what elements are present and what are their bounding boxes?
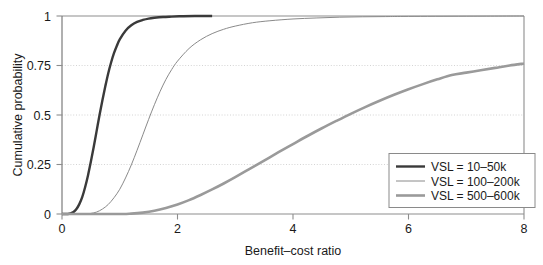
x-tick-label-2: 2: [174, 222, 181, 236]
y-tick-label-0.75: 0.75: [27, 59, 51, 73]
chart-legend[interactable]: VSL = 10–50k VSL = 100–200k VSL = 500–60…: [389, 154, 535, 208]
y-tick-label-1: 1: [44, 10, 51, 24]
grid-lines: [62, 66, 524, 165]
y-tick-marks: [57, 16, 63, 214]
x-tick-labels: 0 2 4 6 8: [59, 222, 528, 236]
x-tick-label-4: 4: [290, 222, 297, 236]
y-axis-title: Cumulative probability: [11, 53, 25, 177]
x-tick-label-6: 6: [405, 222, 412, 236]
x-tick-label-0: 0: [59, 222, 66, 236]
cumulative-probability-chart: 0 0.25 0.5 0.75 1 0 2 4 6 8 Benefit–cost…: [0, 0, 543, 265]
x-tick-label-8: 8: [521, 222, 528, 236]
y-tick-labels: 0 0.25 0.5 0.75 1: [27, 10, 51, 222]
x-axis-title: Benefit–cost ratio: [245, 244, 342, 258]
y-tick-label-0: 0: [44, 208, 51, 222]
y-tick-label-0.5: 0.5: [34, 109, 51, 123]
figure-container: 0 0.25 0.5 0.75 1 0 2 4 6 8 Benefit–cost…: [0, 0, 543, 265]
y-tick-label-0.25: 0.25: [27, 158, 51, 172]
legend-label-2: VSL = 500–600k: [431, 189, 521, 203]
legend-label-1: VSL = 100–200k: [431, 175, 521, 189]
legend-label-0: VSL = 10–50k: [431, 160, 507, 174]
